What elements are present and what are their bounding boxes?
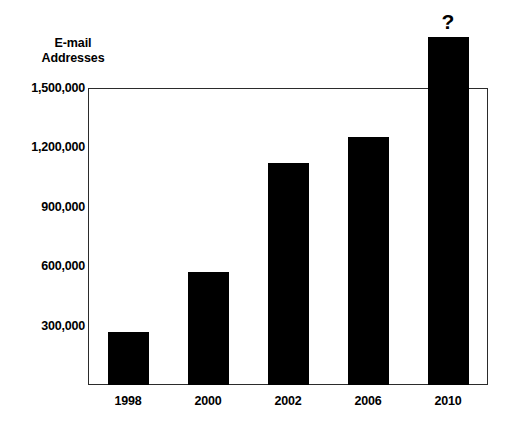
x-axis-tick-label: 2000 [168,394,248,408]
bar [348,137,389,385]
x-axis-tick-label: 1998 [88,394,168,408]
x-axis-tick-label: 2006 [328,394,408,408]
bar [268,163,309,385]
y-axis-tick-label: 600,000 [1,259,85,273]
y-axis-tick-label: 300,000 [1,319,85,333]
y-axis-tick-labels: 1,500,0001,200,000900,000600,000300,000 [0,0,85,438]
x-axis-tick-label: 2002 [248,394,328,408]
bar [428,37,469,385]
x-axis-tick-label: 2010 [408,394,488,408]
bar-chart: E-mail Addresses 1,500,0001,200,000900,0… [0,0,507,438]
y-axis-tick-label: 900,000 [1,200,85,214]
y-axis-tick-label: 1,200,000 [1,140,85,154]
question-mark-annotation: ? [428,11,468,32]
bar [108,332,149,385]
y-axis-tick-label: 1,500,000 [1,81,85,95]
bar [188,272,229,385]
